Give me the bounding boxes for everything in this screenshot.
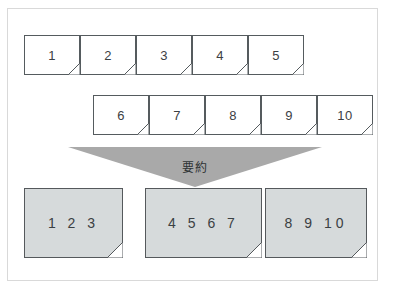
source-card-1: 1: [24, 35, 80, 75]
page-fold-icon: [236, 63, 248, 75]
page-fold-icon: [68, 63, 80, 75]
source-card-5: 5: [248, 35, 304, 75]
source-card-4: 4: [192, 35, 248, 75]
summarize-arrow-label: 要約: [68, 158, 322, 175]
source-card-8: 8: [205, 95, 261, 135]
page-fold-icon: [107, 242, 123, 258]
page-fold-icon: [249, 123, 261, 135]
page-fold-icon: [180, 63, 192, 75]
page-fold-icon: [361, 123, 373, 135]
summarization-diagram: 1 2 3 4 5 6 7: [0, 0, 393, 297]
page-fold-icon: [124, 63, 136, 75]
source-card-3: 3: [136, 35, 192, 75]
source-card-2: 2: [80, 35, 136, 75]
source-card-1-label: 1: [25, 49, 79, 62]
source-card-6: 6: [93, 95, 149, 135]
source-card-7-label: 7: [150, 109, 204, 122]
source-card-7: 7: [149, 95, 205, 135]
source-card-9-label: 9: [262, 109, 316, 122]
source-card-6-label: 6: [94, 109, 148, 122]
summarize-arrow: 要約: [68, 147, 322, 187]
page-fold-icon: [193, 123, 205, 135]
summary-card-1-label: 1 2 3: [25, 216, 122, 230]
source-card-3-label: 3: [137, 49, 191, 62]
page-fold-icon: [305, 123, 317, 135]
source-card-2-label: 2: [81, 49, 135, 62]
page-fold-icon: [137, 123, 149, 135]
summary-card-3: 8 9 10: [265, 188, 367, 258]
page-fold-icon: [246, 242, 262, 258]
source-card-10: 10: [317, 95, 373, 135]
page-fold-icon: [351, 242, 367, 258]
summary-card-2-label: 4 5 6 7: [146, 216, 261, 230]
page-fold-icon: [292, 63, 304, 75]
source-card-8-label: 8: [206, 109, 260, 122]
source-card-10-label: 10: [318, 109, 372, 122]
summary-card-1: 1 2 3: [24, 188, 123, 258]
source-card-4-label: 4: [193, 49, 247, 62]
source-card-9: 9: [261, 95, 317, 135]
source-card-5-label: 5: [249, 49, 303, 62]
summary-card-2: 4 5 6 7: [145, 188, 262, 258]
summary-card-3-label: 8 9 10: [266, 216, 366, 230]
